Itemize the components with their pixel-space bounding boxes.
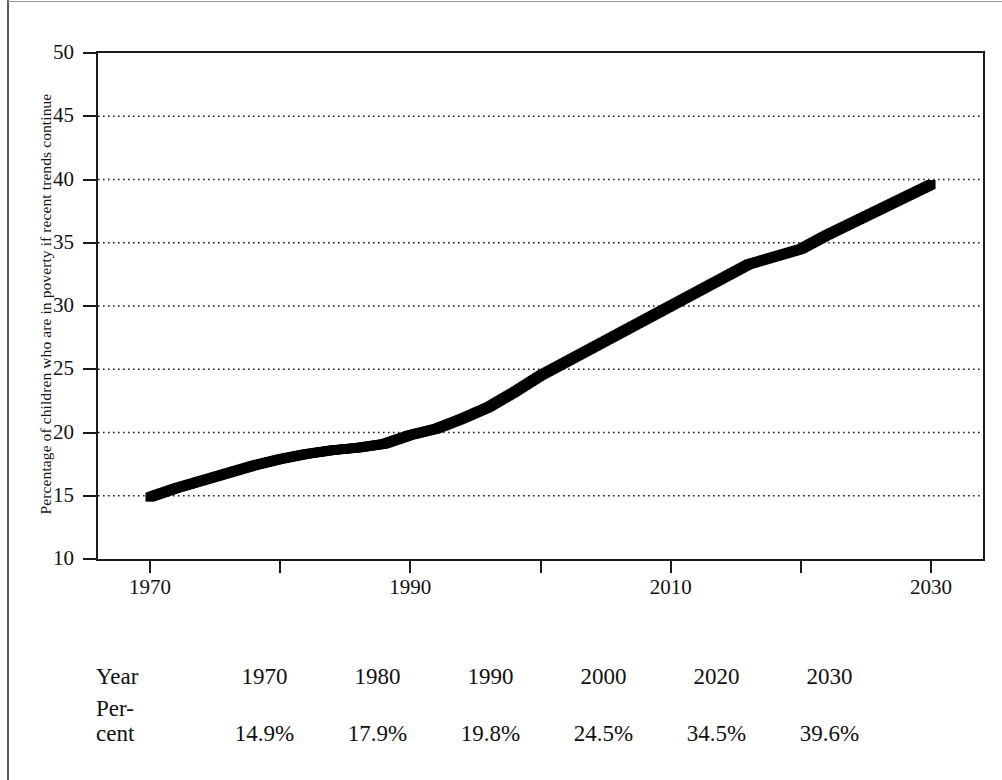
y-axis-tick-label: 45: [34, 105, 74, 126]
table-cell-percent: 17.9%: [321, 696, 434, 746]
y-axis-tick-mark: [83, 305, 96, 307]
x-axis-tick-mark: [930, 561, 932, 573]
y-axis-tick-mark: [83, 432, 96, 434]
x-axis-tick-mark: [149, 561, 151, 573]
poverty-projection-chart: Percentage of children who are in povert…: [0, 0, 1002, 640]
x-axis-tick-mark: [670, 561, 672, 573]
y-axis-tick-label: 10: [34, 548, 74, 569]
y-axis-tick-group: 504540353025201510: [44, 0, 96, 620]
table-row: Year197019801990200020202030: [96, 662, 886, 696]
table-cell-year: 1970: [208, 662, 321, 696]
x-axis-tick-mark: [540, 561, 542, 573]
x-axis-tick-label: 2030: [886, 576, 976, 598]
plot-area: [96, 51, 985, 561]
x-axis-tick-label: 2010: [626, 576, 716, 598]
y-axis-tick-label: 15: [34, 485, 74, 506]
y-axis-tick-mark: [83, 558, 96, 560]
y-axis-tick-label: 30: [34, 295, 74, 316]
y-axis-tick-label: 25: [34, 358, 74, 379]
y-axis-tick-mark: [83, 115, 96, 117]
table-row-header: Year: [96, 662, 208, 696]
x-axis-tick-mark: [279, 561, 281, 573]
x-axis-tick-label: 1990: [365, 576, 455, 598]
table-cell-year: 2000: [547, 662, 660, 696]
table-cell-year: 2030: [773, 662, 886, 696]
table-cell-year: 1990: [434, 662, 547, 696]
series-marker-band: [145, 180, 935, 502]
y-axis-tick-label: 35: [34, 232, 74, 253]
data-series-group: [145, 180, 935, 502]
table-cell-percent: 19.8%: [434, 696, 547, 746]
table-cell-percent: 39.6%: [773, 696, 886, 746]
y-axis-tick-mark: [83, 242, 96, 244]
table-cell-percent: 34.5%: [660, 696, 773, 746]
y-axis-tick-mark: [83, 368, 96, 370]
plot-svg: [98, 53, 983, 559]
x-axis-tick-mark: [800, 561, 802, 573]
y-axis-tick-label: 20: [34, 422, 74, 443]
table-cell-percent: 24.5%: [547, 696, 660, 746]
x-axis-tick-mark: [409, 561, 411, 573]
table-cell-year: 1980: [321, 662, 434, 696]
y-axis-tick-mark: [83, 179, 96, 181]
y-axis-tick-label: 40: [34, 169, 74, 190]
x-axis-tick-label: 1970: [105, 576, 195, 598]
gridline-group: [98, 116, 983, 496]
table-row: Per- cent14.9%17.9%19.8%24.5%34.5%39.6%: [96, 696, 886, 746]
table-row-header: Per- cent: [96, 696, 208, 746]
data-table: Year197019801990200020202030Per- cent14.…: [96, 662, 886, 746]
table-cell-percent: 14.9%: [208, 696, 321, 746]
y-axis-tick-label: 50: [34, 42, 74, 63]
y-axis-tick-mark: [83, 495, 96, 497]
table-cell-year: 2020: [660, 662, 773, 696]
year-percent-table: Year197019801990200020202030Per- cent14.…: [96, 662, 886, 746]
y-axis-tick-mark: [83, 52, 96, 54]
